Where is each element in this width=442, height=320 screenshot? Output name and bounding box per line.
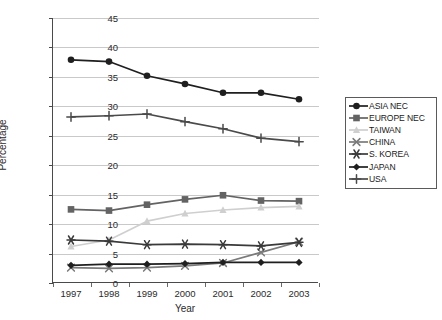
legend-marker-cross-icon [348, 136, 369, 148]
x-axis-title: Year [175, 303, 195, 314]
chart-legend: ASIA NECEUROPE NECTAIWANCHINAS. KOREAJAP… [345, 97, 437, 189]
y-axis-tick-label: 35 [78, 71, 118, 82]
legend-label: ASIA NEC [369, 100, 408, 112]
legend-marker-triangle-icon [348, 124, 369, 136]
legend-item-asia-nec[interactable]: ASIA NEC [348, 100, 434, 112]
y-axis-tick-label: 45 [78, 13, 118, 24]
y-axis-tick-label: 15 [78, 189, 118, 200]
y-axis-tick-label: 5 [78, 248, 118, 259]
legend-item-s-korea[interactable]: S. KOREA [348, 148, 434, 160]
legend-item-china[interactable]: CHINA [348, 136, 434, 148]
line-chart: Percentage Year ASIA NECEUROPE NECTAIWAN… [0, 0, 442, 320]
legend-marker-circle-icon [348, 100, 369, 112]
legend-marker-square-icon [348, 112, 369, 124]
legend-label: EUROPE NEC [369, 112, 425, 124]
legend-item-taiwan[interactable]: TAIWAN [348, 124, 434, 136]
y-axis-title: Percentage [0, 119, 8, 170]
y-axis-tick-label: 30 [78, 101, 118, 112]
legend-label: JAPAN [369, 161, 396, 173]
y-axis-tick-label: 25 [78, 130, 118, 141]
legend-item-europe-nec[interactable]: EUROPE NEC [348, 112, 434, 124]
y-axis-tick-label: 10 [78, 219, 118, 230]
legend-marker-diamond-icon [348, 161, 369, 173]
y-axis-tick-label: 20 [78, 160, 118, 171]
legend-item-usa[interactable]: USA [348, 173, 434, 185]
legend-marker-asterisk-icon [348, 148, 369, 160]
y-axis-tick-label: 40 [78, 42, 118, 53]
legend-label: CHINA [369, 136, 395, 148]
legend-label: TAIWAN [369, 124, 401, 136]
series-layer [52, 18, 318, 284]
x-axis-tick-label: 2003 [277, 288, 321, 299]
legend-marker-plus-icon [348, 173, 369, 185]
legend-label: USA [369, 173, 386, 185]
legend-label: S. KOREA [369, 148, 409, 160]
x-axis-tick [319, 283, 320, 287]
y-axis-tick-label: 0 [78, 278, 118, 289]
legend-item-japan[interactable]: JAPAN [348, 160, 434, 172]
